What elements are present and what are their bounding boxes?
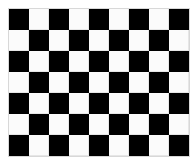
- light-square: [69, 9, 89, 30]
- light-square: [109, 135, 129, 156]
- light-square: [129, 114, 149, 135]
- dark-square: [29, 114, 49, 135]
- light-square: [69, 135, 89, 156]
- light-square: [69, 51, 89, 72]
- dark-square: [29, 30, 49, 51]
- dark-square: [69, 72, 89, 93]
- dark-square: [49, 93, 69, 114]
- dark-square: [89, 93, 109, 114]
- light-square: [89, 114, 109, 135]
- light-square: [129, 72, 149, 93]
- light-square: [89, 30, 109, 51]
- light-square: [109, 93, 129, 114]
- light-square: [49, 72, 69, 93]
- dark-square: [29, 72, 49, 93]
- dark-square: [89, 51, 109, 72]
- dark-square: [89, 9, 109, 30]
- dark-square: [169, 51, 189, 72]
- dark-square: [109, 30, 129, 51]
- dark-square: [49, 135, 69, 156]
- light-square: [169, 114, 189, 135]
- dark-square: [9, 135, 29, 156]
- dark-square: [9, 51, 29, 72]
- light-square: [9, 30, 29, 51]
- dark-square: [129, 135, 149, 156]
- light-square: [29, 9, 49, 30]
- light-square: [9, 114, 29, 135]
- dark-square: [169, 93, 189, 114]
- dark-square: [9, 93, 29, 114]
- light-square: [29, 51, 49, 72]
- dark-square: [69, 114, 89, 135]
- light-square: [109, 51, 129, 72]
- light-square: [89, 72, 109, 93]
- dark-square: [49, 51, 69, 72]
- dark-square: [149, 30, 169, 51]
- light-square: [29, 93, 49, 114]
- dark-square: [129, 51, 149, 72]
- dark-square: [49, 9, 69, 30]
- dark-square: [109, 72, 129, 93]
- light-square: [109, 9, 129, 30]
- dark-square: [169, 135, 189, 156]
- light-square: [149, 51, 169, 72]
- dark-square: [149, 114, 169, 135]
- light-square: [169, 30, 189, 51]
- light-square: [49, 30, 69, 51]
- light-square: [49, 114, 69, 135]
- light-square: [69, 93, 89, 114]
- checkerboard: [8, 8, 190, 157]
- light-square: [149, 9, 169, 30]
- dark-square: [129, 93, 149, 114]
- light-square: [149, 93, 169, 114]
- dark-square: [69, 30, 89, 51]
- dark-square: [169, 9, 189, 30]
- light-square: [149, 135, 169, 156]
- light-square: [9, 72, 29, 93]
- dark-square: [149, 72, 169, 93]
- light-square: [29, 135, 49, 156]
- light-square: [129, 30, 149, 51]
- light-square: [169, 72, 189, 93]
- dark-square: [109, 114, 129, 135]
- dark-square: [129, 9, 149, 30]
- dark-square: [89, 135, 109, 156]
- dark-square: [9, 9, 29, 30]
